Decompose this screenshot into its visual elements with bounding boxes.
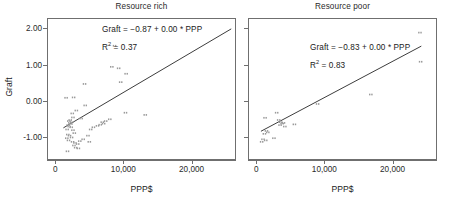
data-point <box>92 126 96 128</box>
data-point <box>283 126 287 128</box>
data-point <box>89 129 93 131</box>
data-point <box>119 81 123 83</box>
data-point <box>81 138 85 140</box>
data-point <box>86 135 90 137</box>
data-point <box>102 123 106 125</box>
x-tick-label: 10,000 <box>111 165 136 174</box>
data-point <box>83 105 87 107</box>
data-point <box>275 112 279 114</box>
data-point <box>263 117 267 119</box>
x-tick-mark <box>123 160 124 164</box>
plot-area-left <box>47 18 236 160</box>
x-axis-right: 010,00020,000 <box>248 160 437 182</box>
panel-title-left: Resource rich <box>47 2 236 11</box>
r-squared-left: R2 = 0.37 <box>102 42 137 53</box>
panel-resource-rich: Resource rich Graft = −0.87 + 0.00 * PPP… <box>47 18 236 160</box>
data-point <box>369 94 373 96</box>
data-point <box>277 119 281 121</box>
x-tick-label: 10,000 <box>312 165 337 174</box>
data-point <box>66 150 70 152</box>
data-point <box>104 120 108 122</box>
data-point <box>272 137 276 139</box>
data-point <box>316 103 320 105</box>
y-tick-label: -1.00 <box>23 133 42 142</box>
regression-line <box>63 29 231 128</box>
data-point <box>64 97 68 99</box>
r-squared-right-value: = 0.83 <box>319 61 345 70</box>
x-axis-line <box>248 160 437 161</box>
data-point <box>65 129 69 131</box>
data-point <box>77 148 81 150</box>
x-axis-line <box>47 160 236 161</box>
data-point <box>70 137 74 139</box>
x-tick-mark <box>55 160 56 164</box>
data-point <box>124 112 128 114</box>
regression-equation-right-text: Graft = −0.83 + 0.00 * PPP <box>310 43 410 52</box>
data-point <box>98 124 102 126</box>
y-tick-label: 2.00 <box>26 24 42 33</box>
data-point <box>69 126 73 128</box>
y-axis-title-left: Graft <box>4 57 14 117</box>
regression-equation-left: Graft = −0.87 + 0.00 * PPP <box>102 24 202 35</box>
data-point <box>100 121 104 123</box>
r-squared-right: R2 = 0.83 <box>310 60 345 71</box>
data-point <box>67 140 71 142</box>
x-tick-mark <box>324 160 325 164</box>
data-point <box>265 130 269 132</box>
x-tick-mark <box>192 160 193 164</box>
data-point <box>71 129 75 131</box>
data-point <box>110 66 114 68</box>
regression-line <box>261 46 421 131</box>
panel-resource-poor: Resource poor Graft = −0.83 + 0.00 * PPP… <box>248 18 437 160</box>
data-point <box>263 133 267 135</box>
linear-regression-figure: -1.000.001.002.00 Resource rich Graft = … <box>0 0 462 205</box>
r-squared-left-value: = 0.37 <box>111 43 137 52</box>
x-tick-mark <box>256 160 257 164</box>
data-point <box>76 143 80 145</box>
x-axis-left: 010,00020,000 <box>47 160 236 182</box>
data-point <box>72 97 76 99</box>
regression-equation-left-text: Graft = −0.87 + 0.00 * PPP <box>102 25 202 34</box>
x-axis-title-left: PPP$ <box>47 184 236 194</box>
x-tick-mark <box>393 160 394 164</box>
x-axis-title-right: PPP$ <box>248 184 437 194</box>
data-point <box>83 83 87 85</box>
scatter-svg-right <box>248 18 437 160</box>
data-point <box>260 141 264 143</box>
data-point <box>71 117 75 119</box>
data-point <box>293 124 297 126</box>
data-point <box>70 113 74 115</box>
data-point <box>264 140 268 142</box>
data-point <box>72 132 76 134</box>
data-point <box>266 132 270 134</box>
scatter-svg-left <box>47 18 236 160</box>
data-point <box>278 124 282 126</box>
x-tick-label: 0 <box>254 165 259 174</box>
regression-equation-right: Graft = −0.83 + 0.00 * PPP <box>310 42 410 53</box>
data-point <box>88 141 92 143</box>
x-tick-label: 20,000 <box>380 165 405 174</box>
y-tick-label: 1.00 <box>26 60 42 69</box>
x-tick-label: 20,000 <box>179 165 204 174</box>
data-point <box>72 145 76 147</box>
data-point <box>65 137 69 139</box>
panel-title-right: Resource poor <box>248 2 437 11</box>
data-point <box>419 61 423 63</box>
x-tick-label: 0 <box>53 165 58 174</box>
data-point <box>143 114 147 116</box>
y-tick-label: 0.00 <box>26 97 42 106</box>
plot-area-right <box>248 18 437 160</box>
data-point <box>117 67 121 69</box>
data-point <box>108 118 112 120</box>
data-point <box>78 140 82 142</box>
data-point <box>124 73 128 75</box>
data-point <box>75 110 79 112</box>
data-point <box>418 32 422 34</box>
